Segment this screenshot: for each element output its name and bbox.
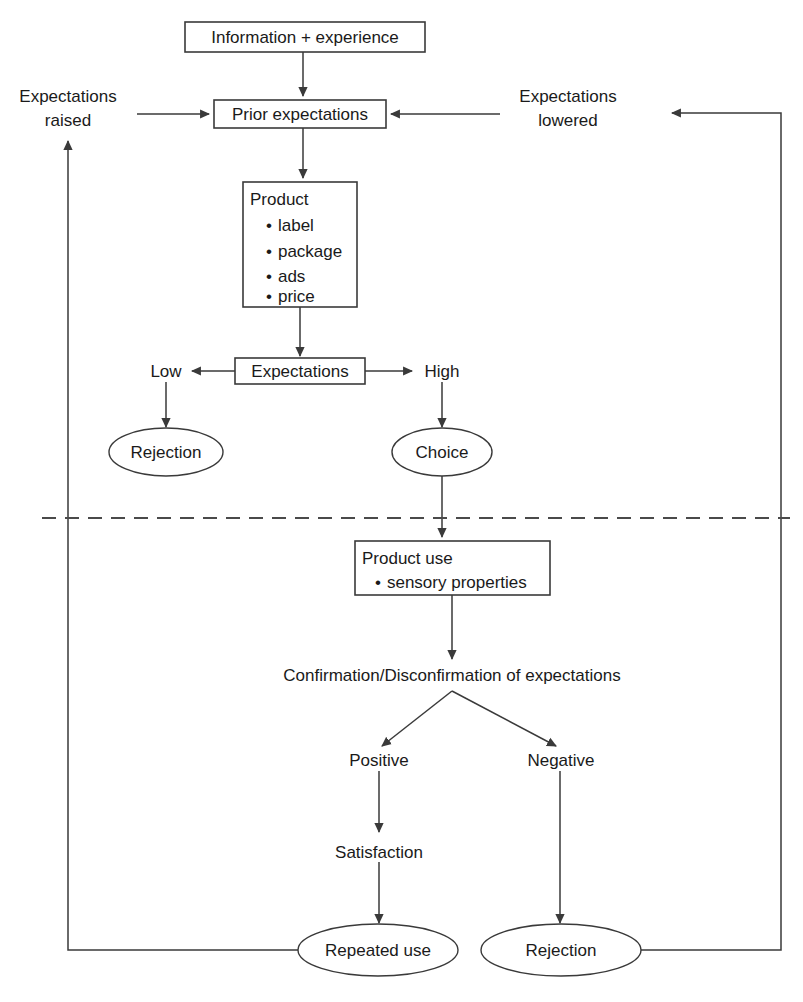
node-product-bullet-1: •package xyxy=(266,242,342,261)
node-high-label: High xyxy=(425,362,460,381)
node-expectations-lowered: Expectations lowered xyxy=(519,87,616,130)
node-satisfaction-label: Satisfaction xyxy=(335,843,423,862)
expectations-lowered-line1: Expectations xyxy=(519,87,616,106)
node-product-use[interactable]: Product use •sensory properties xyxy=(355,541,550,595)
node-prior-expectations-label: Prior expectations xyxy=(232,105,368,124)
expectations-raised-line1: Expectations xyxy=(19,87,116,106)
expectations-raised-line2: raised xyxy=(45,111,91,130)
bullet-glyph: • xyxy=(266,287,272,306)
node-negative-label: Negative xyxy=(527,751,594,770)
edge-rejection-feedback-loop xyxy=(641,113,781,950)
node-rejection-bottom-label: Rejection xyxy=(526,941,597,960)
node-rejection-top-label: Rejection xyxy=(131,443,202,462)
node-information-experience[interactable]: Information + experience xyxy=(185,22,425,52)
node-expectations[interactable]: Expectations xyxy=(235,358,365,384)
node-choice-label: Choice xyxy=(416,443,469,462)
node-low-label: Low xyxy=(150,362,182,381)
node-rejection-bottom[interactable]: Rejection xyxy=(481,924,641,976)
node-product[interactable]: Product •label •package •ads •price xyxy=(243,182,357,307)
node-confirmation-disconfirmation-label: Confirmation/Disconfirmation of expectat… xyxy=(283,666,620,685)
node-prior-expectations[interactable]: Prior expectations xyxy=(214,100,386,128)
flowchart-diagram: Information + experience Prior expectati… xyxy=(0,0,803,1002)
node-expectations-label: Expectations xyxy=(251,362,348,381)
flowchart-canvas: Information + experience Prior expectati… xyxy=(0,0,803,1002)
bullet-glyph: • xyxy=(266,216,272,235)
bullet-glyph: • xyxy=(375,573,381,592)
node-product-item-2: ads xyxy=(278,267,305,286)
bullet-glyph: • xyxy=(266,242,272,261)
expectations-lowered-line2: lowered xyxy=(538,111,598,130)
node-choice[interactable]: Choice xyxy=(392,428,492,476)
node-product-use-item-0: sensory properties xyxy=(387,573,527,592)
edge-confirmation-to-negative xyxy=(452,691,556,746)
edge-confirmation-to-positive xyxy=(382,691,452,746)
node-product-use-title: Product use xyxy=(362,549,453,568)
node-repeated-use-label: Repeated use xyxy=(325,941,431,960)
node-product-item-3: price xyxy=(278,287,315,306)
node-product-item-0: label xyxy=(278,216,314,235)
node-product-item-1: package xyxy=(278,242,342,261)
node-product-title: Product xyxy=(250,190,309,209)
node-positive-label: Positive xyxy=(349,751,409,770)
bullet-glyph: • xyxy=(266,267,272,286)
node-information-experience-label: Information + experience xyxy=(211,28,399,47)
node-product-use-bullet-0: •sensory properties xyxy=(375,573,527,592)
node-expectations-raised: Expectations raised xyxy=(19,87,116,130)
node-rejection-top[interactable]: Rejection xyxy=(109,428,223,476)
node-repeated-use[interactable]: Repeated use xyxy=(298,924,458,976)
node-product-bullet-2: •ads xyxy=(266,267,305,286)
